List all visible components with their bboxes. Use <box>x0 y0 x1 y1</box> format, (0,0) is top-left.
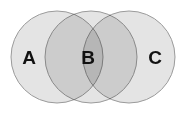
venn-diagram-canvas: A B C <box>0 0 184 116</box>
region-label-b: B <box>81 47 95 68</box>
region-label-c: C <box>148 47 162 68</box>
venn-diagram: A B C <box>0 0 184 116</box>
region-label-a: A <box>22 47 36 68</box>
